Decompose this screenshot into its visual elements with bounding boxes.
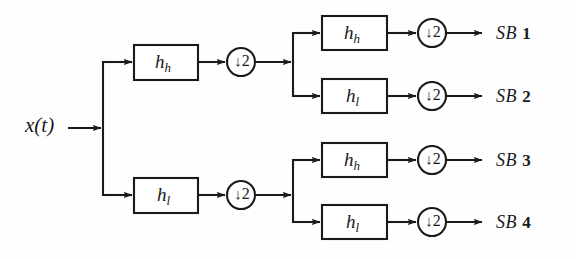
filter-base-letter: h xyxy=(344,22,354,43)
down-arrow-icon: ↓ xyxy=(234,53,242,69)
filter-base-letter: h xyxy=(155,51,165,72)
down-arrow-icon: ↓ xyxy=(425,24,433,40)
down-arrow-icon: ↓ xyxy=(234,186,242,202)
output-label-sb3: SB 3 xyxy=(496,151,531,169)
block-label-hh-stage1: hh xyxy=(155,52,171,74)
output-label-sb2: SB 2 xyxy=(496,87,531,105)
filter-bank-diagram: x(t) hh hl hh hl hh hl ↓2 ↓2 ↓2 ↓2 ↓2 ↓2… xyxy=(0,0,576,259)
subband-prefix: SB xyxy=(496,23,517,43)
decimation-factor: 2 xyxy=(242,185,250,202)
filter-base-letter: h xyxy=(344,149,354,170)
decimator-label-stage1-low: ↓2 xyxy=(229,186,255,202)
block-label-hl-stage1: hl xyxy=(157,185,170,207)
subband-number: 1 xyxy=(522,24,531,43)
filter-base-letter: h xyxy=(157,184,167,205)
decimation-factor: 2 xyxy=(242,52,250,69)
down-arrow-icon: ↓ xyxy=(425,213,433,229)
output-label-sb1: SB 1 xyxy=(496,24,531,42)
subband-prefix: SB xyxy=(496,150,517,170)
filter-subscript: l xyxy=(167,193,171,208)
filter-subscript: l xyxy=(356,220,360,235)
decimator-label-sb3: ↓2 xyxy=(420,151,446,167)
decimation-factor: 2 xyxy=(433,150,441,167)
filter-subscript: l xyxy=(356,94,360,109)
block-label-hl-stage2-a: hl xyxy=(346,86,359,108)
decimation-factor: 2 xyxy=(433,212,441,229)
decimator-label-sb2: ↓2 xyxy=(420,87,446,103)
decimator-label-sb4: ↓2 xyxy=(420,213,446,229)
filter-base-letter: h xyxy=(346,211,356,232)
block-label-hh-stage2-a: hh xyxy=(344,23,360,45)
down-arrow-icon: ↓ xyxy=(425,87,433,103)
decimation-factor: 2 xyxy=(433,23,441,40)
subband-prefix: SB xyxy=(496,212,517,232)
input-signal-text: x(t) xyxy=(25,113,54,137)
subband-prefix: SB xyxy=(496,86,517,106)
decimator-label-stage1-high: ↓2 xyxy=(229,53,255,69)
filter-subscript: h xyxy=(165,60,172,75)
subband-number: 2 xyxy=(522,87,531,106)
filter-base-letter: h xyxy=(346,85,356,106)
down-arrow-icon: ↓ xyxy=(425,151,433,167)
output-label-sb4: SB 4 xyxy=(496,213,531,231)
subband-number: 3 xyxy=(522,151,531,170)
block-label-hl-stage2-b: hl xyxy=(346,212,359,234)
block-label-hh-stage2-b: hh xyxy=(344,150,360,172)
subband-number: 4 xyxy=(522,213,531,232)
input-signal-label: x(t) xyxy=(25,115,54,136)
filter-subscript: h xyxy=(354,31,361,46)
filter-subscript: h xyxy=(354,158,361,173)
decimation-factor: 2 xyxy=(433,86,441,103)
diagram-canvas xyxy=(0,0,576,259)
decimator-label-sb1: ↓2 xyxy=(420,24,446,40)
